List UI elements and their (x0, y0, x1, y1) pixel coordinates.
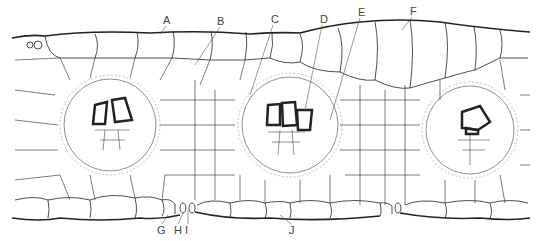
leaf-cross-section-diagram (0, 0, 539, 241)
vascular-bundle-left (60, 75, 160, 175)
label-I: I (185, 225, 188, 236)
lower-epidermis-cuticle (12, 212, 530, 220)
label-leader-lines (160, 17, 412, 224)
label-D: D (320, 14, 328, 25)
label-J: J (289, 225, 295, 236)
lower-epidermis-cells (15, 195, 528, 218)
label-G: G (157, 225, 166, 236)
label-H: H (174, 225, 182, 236)
upper-epidermis-cells (27, 20, 528, 88)
label-F: F (410, 6, 417, 17)
vascular-bundle-center (238, 73, 342, 177)
label-E: E (358, 7, 365, 18)
label-A: A (163, 15, 170, 26)
vascular-bundle-right (422, 82, 518, 178)
label-B: B (217, 16, 224, 27)
label-C: C (271, 14, 279, 25)
